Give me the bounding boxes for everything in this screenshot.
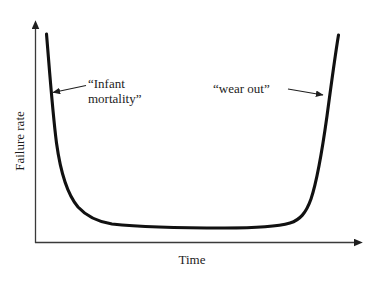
x-axis-label: Time [0,252,384,268]
wear-out-annotation: “wear out” [213,81,270,96]
infant-mortality-annotation: “Infant mortality” [88,76,141,106]
infant-mortality-line-2: mortality” [88,91,141,106]
infant-mortality-line-1: “Infant [88,76,141,91]
y-axis-label: Failure rate [12,91,28,191]
bathtub-curve-figure [0,0,384,284]
